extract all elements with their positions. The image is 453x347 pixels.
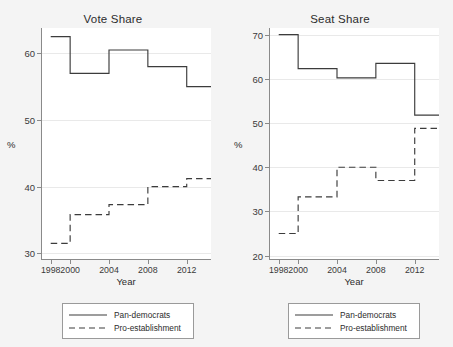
legend-vote-share: Pan-democrats Pro-establishment bbox=[62, 303, 194, 339]
x-tick-mark bbox=[109, 260, 110, 264]
y-axis-title-seat-share: % bbox=[234, 139, 242, 150]
series-lines-seat-share bbox=[269, 28, 439, 260]
legend-label-pro-establishment: Pro-establishment bbox=[340, 323, 407, 333]
x-axis-title-seat-share: Year bbox=[269, 276, 439, 287]
legend-label-pan-democrats: Pan-democrats bbox=[340, 310, 396, 320]
y-tick-label: 50 bbox=[24, 115, 35, 126]
y-tick-label: 60 bbox=[252, 73, 263, 84]
legend-key-solid-line bbox=[68, 310, 108, 320]
panel-title-seat-share: Seat Share bbox=[227, 13, 453, 25]
series-line-pan-democrats bbox=[279, 35, 439, 115]
y-tick-label: 40 bbox=[24, 181, 35, 192]
series-line-pan-democrats bbox=[51, 37, 211, 87]
plot-area-seat-share: 203040506070 19982000200420082012 % Year bbox=[269, 28, 439, 260]
x-axis-title-vote-share: Year bbox=[41, 276, 211, 287]
x-tick-label: 2008 bbox=[138, 265, 158, 275]
series-lines-vote-share bbox=[41, 28, 211, 260]
y-tick-label: 70 bbox=[252, 29, 263, 40]
x-tick-label: 2012 bbox=[177, 265, 197, 275]
x-tick-label: 2012 bbox=[405, 265, 425, 275]
y-tick-label: 30 bbox=[252, 206, 263, 217]
x-tick-label: 2000 bbox=[288, 265, 308, 275]
y-tick-label: 40 bbox=[252, 162, 263, 173]
x-tick-mark bbox=[279, 260, 280, 264]
legend-key-solid-line bbox=[294, 310, 334, 320]
x-tick-label: 2004 bbox=[327, 265, 347, 275]
panel-seat-share: Seat Share 203040506070 1998200020042008… bbox=[227, 0, 453, 347]
x-tick-mark bbox=[70, 260, 71, 264]
y-tick-label: 20 bbox=[252, 250, 263, 261]
x-tick-mark bbox=[51, 260, 52, 264]
x-tick-label: 2008 bbox=[366, 265, 386, 275]
legend-key-dashed-line bbox=[68, 323, 108, 333]
legend-item-pro-establishment[interactable]: Pro-establishment bbox=[68, 321, 188, 334]
panel-title-vote-share: Vote Share bbox=[0, 13, 226, 25]
legend-seat-share: Pan-democrats Pro-establishment bbox=[288, 303, 420, 339]
y-tick-label: 50 bbox=[252, 118, 263, 129]
x-tick-label: 1998 bbox=[41, 265, 61, 275]
x-tick-mark bbox=[415, 260, 416, 264]
x-tick-mark bbox=[298, 260, 299, 264]
legend-item-pan-democrats[interactable]: Pan-democrats bbox=[294, 308, 414, 321]
panel-vote-share: Vote Share 30405060 19982000200420082012… bbox=[0, 0, 226, 347]
legend-label-pan-democrats: Pan-democrats bbox=[114, 310, 170, 320]
x-tick-label: 2004 bbox=[99, 265, 119, 275]
legend-label-pro-establishment: Pro-establishment bbox=[114, 323, 181, 333]
x-tick-mark bbox=[337, 260, 338, 264]
x-tick-label: 1998 bbox=[269, 265, 289, 275]
y-axis-title-vote-share: % bbox=[7, 139, 15, 150]
y-tick-label: 60 bbox=[24, 48, 35, 59]
plot-area-vote-share: 30405060 19982000200420082012 % Year bbox=[41, 28, 211, 260]
series-line-pro-establishment bbox=[279, 128, 439, 233]
x-tick-mark bbox=[376, 260, 377, 264]
y-tick-label: 30 bbox=[24, 248, 35, 259]
legend-item-pan-democrats[interactable]: Pan-democrats bbox=[68, 308, 188, 321]
x-tick-mark bbox=[187, 260, 188, 264]
legend-item-pro-establishment[interactable]: Pro-establishment bbox=[294, 321, 414, 334]
x-tick-label: 2000 bbox=[60, 265, 80, 275]
figure-canvas: Vote Share 30405060 19982000200420082012… bbox=[0, 0, 453, 347]
legend-key-dashed-line bbox=[294, 323, 334, 333]
series-line-pro-establishment bbox=[51, 179, 211, 244]
x-tick-mark bbox=[148, 260, 149, 264]
